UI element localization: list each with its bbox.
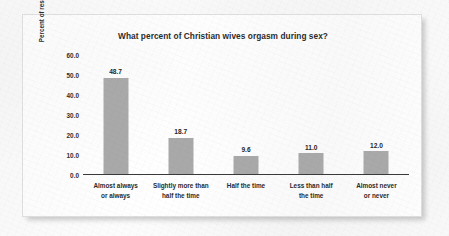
chart-card: What percent of Christian wives orgasm d…	[22, 14, 422, 217]
bar-slot: 11.0	[279, 55, 344, 175]
bar[interactable]	[299, 153, 324, 175]
bar-value-label: 18.7	[174, 128, 187, 135]
x-axis-category-label: Almost alwaysor always	[83, 181, 148, 200]
bar-slot: 9.6	[213, 55, 278, 175]
y-axis-tick-label: 20.0	[49, 132, 79, 139]
x-axis-category-label: Slightly more thanhalf the time	[148, 181, 213, 200]
y-axis-tick-label: 40.0	[49, 92, 79, 99]
x-axis-category-label-line: the time	[279, 191, 344, 201]
bar[interactable]	[364, 151, 389, 175]
x-axis-category-labels: Almost alwaysor alwaysSlightly more than…	[83, 181, 409, 215]
bar-value-label: 11.0	[305, 144, 317, 151]
y-axis-title: Percent of respondents	[37, 0, 47, 62]
y-axis-tick-labels: 60.050.040.030.020.010.00.0	[49, 55, 79, 175]
x-axis-category-label-line: Almost always	[83, 181, 148, 191]
bar-value-label: 9.6	[241, 146, 250, 153]
bar[interactable]	[233, 156, 258, 175]
x-axis-category-label-line: Less than half	[279, 181, 344, 191]
chart-title: What percent of Christian wives orgasm d…	[23, 31, 423, 41]
x-axis-category-label-line: Almost never	[344, 181, 409, 191]
bar-value-label: 48.7	[109, 68, 122, 75]
y-axis-tick-label: 30.0	[49, 112, 79, 119]
page-background: What percent of Christian wives orgasm d…	[0, 0, 449, 236]
bar-value-label: 12.0	[370, 142, 383, 149]
bar-slot: 12.0	[344, 55, 409, 175]
plot-area: 48.718.79.611.012.0	[83, 55, 409, 175]
bar-slot: 48.7	[83, 55, 148, 175]
y-axis-tick-label: 0.0	[49, 172, 79, 179]
x-axis-category-label: Less than halfthe time	[279, 181, 344, 200]
x-axis-line	[83, 174, 409, 175]
x-axis-category-label-line: or always	[83, 191, 148, 201]
bar[interactable]	[103, 78, 128, 175]
x-axis-category-label-line: or never	[344, 191, 409, 201]
y-axis-tick-label: 10.0	[49, 152, 79, 159]
x-axis-category-label: Half the time	[213, 181, 278, 191]
bar-slot: 18.7	[148, 55, 213, 175]
y-axis-tick-label: 50.0	[49, 72, 79, 79]
x-axis-category-label-line: Slightly more than	[148, 181, 213, 191]
x-axis-category-label-line: Half the time	[213, 181, 278, 191]
x-axis-category-label-line: half the time	[148, 191, 213, 201]
bar[interactable]	[168, 138, 193, 175]
y-axis-tick-label: 60.0	[49, 52, 79, 59]
x-axis-category-label: Almost neveror never	[344, 181, 409, 200]
